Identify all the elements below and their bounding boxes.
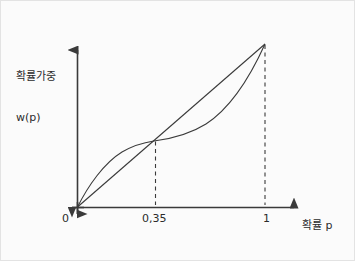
tick-label-origin: 0	[62, 212, 69, 225]
y-axis-label-line2: w(p)	[16, 111, 56, 125]
diagonal-reference-line	[78, 44, 266, 207]
y-axis-label-line1: 확률가중	[16, 70, 56, 84]
tick-label-0-35: 0,35	[142, 212, 167, 225]
probability-weighting-function-figure: 확률가중 w(p) 확률 p 0 0,35 1	[0, 0, 355, 261]
y-axis-label: 확률가중 w(p)	[16, 43, 56, 151]
x-axis-label: 확률 p	[302, 219, 332, 233]
tick-label-1: 1	[263, 212, 270, 225]
